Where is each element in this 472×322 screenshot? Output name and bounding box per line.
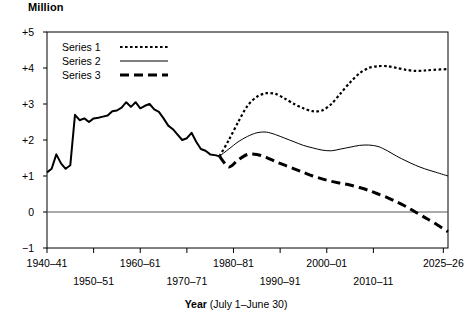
y-tick-label: +2 [8,135,34,146]
x-tick-label: 1940–41 [17,258,77,269]
legend-label: Series 1 [62,42,101,53]
y-tick-label: +1 [8,171,34,182]
x-axis-ticks [47,248,443,253]
x-tick-label: 2025–26 [413,258,472,269]
y-tick-label: +4 [8,63,34,74]
y-tick-label: +3 [8,99,34,110]
chart-figure: Million +5+4+3+2+10−1 1940–411950–511960… [0,0,472,322]
x-tick-label: 2010–11 [343,276,403,287]
series-line [220,154,448,232]
y-tick-label: −1 [8,243,34,254]
series-line [47,102,220,172]
legend-label: Series 3 [62,70,101,81]
x-tick-label: 1950–51 [64,276,124,287]
x-axis-title: Year (July 1–June 30) [0,298,472,310]
legend-swatches [120,47,168,75]
plot-frame [47,32,448,248]
y-axis-ticks [43,32,47,248]
x-tick-label: 1990–91 [250,276,310,287]
x-tick-label: 1980–81 [204,258,264,269]
x-tick-label: 1970–71 [157,276,217,287]
legend-label: Series 2 [62,56,101,67]
series-line [220,66,448,156]
y-tick-label: +5 [8,27,34,38]
x-axis-title-rest: (July 1–June 30) [207,298,288,310]
x-tick-label: 2000–01 [297,258,357,269]
series-lines [47,66,448,232]
x-tick-label: 1960–61 [110,258,170,269]
x-axis-title-bold: Year [185,298,207,310]
y-tick-label: 0 [8,207,34,218]
